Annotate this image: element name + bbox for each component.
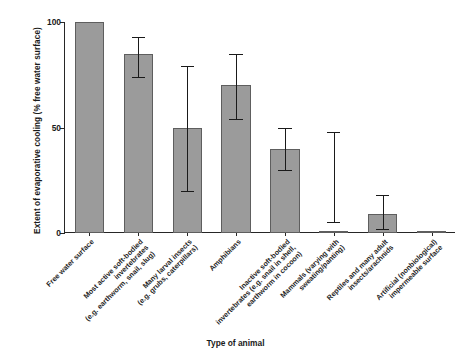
x-axis-category-label: Amphibians <box>208 238 243 273</box>
x-axis-category-label: Free water surface <box>46 238 97 289</box>
error-bar-line <box>285 128 286 170</box>
error-bar-line <box>138 37 139 77</box>
error-bar-cap-lower <box>229 119 242 120</box>
error-bar-cap-lower <box>278 170 291 171</box>
bar <box>124 54 153 233</box>
error-bar-cap-upper <box>327 132 340 133</box>
category-label-line: Free water surface <box>46 238 97 289</box>
error-bar-cap-upper <box>278 128 291 129</box>
bar <box>417 231 446 233</box>
bar <box>319 231 348 233</box>
y-axis-title: Extent of evaporative cooling (% free wa… <box>33 16 42 246</box>
error-bar-cap-upper <box>229 54 242 55</box>
y-axis-tick-label: 0 <box>56 228 61 238</box>
y-axis-tick-label: 50 <box>52 123 61 133</box>
bar <box>75 22 104 233</box>
error-bar-cap-lower <box>327 222 340 223</box>
error-bar-cap-upper <box>132 37 145 38</box>
error-bar-cap-lower <box>181 191 194 192</box>
error-bar-line <box>187 66 188 190</box>
chart-figure: Extent of evaporative cooling (% free wa… <box>0 0 471 358</box>
error-bar-line <box>236 54 237 119</box>
plot-area: 050100 <box>64 22 455 233</box>
y-axis-tick-label: 100 <box>47 17 61 27</box>
error-bar-line <box>383 195 384 229</box>
error-bar-cap-upper <box>181 66 194 67</box>
error-bar-cap-lower <box>132 77 145 78</box>
error-bar-cap-upper <box>376 195 389 196</box>
category-label-line: Amphibians <box>208 238 243 273</box>
error-bar-cap-lower <box>376 229 389 230</box>
x-axis-title: Type of animal <box>0 338 471 348</box>
error-bar-line <box>334 132 335 223</box>
